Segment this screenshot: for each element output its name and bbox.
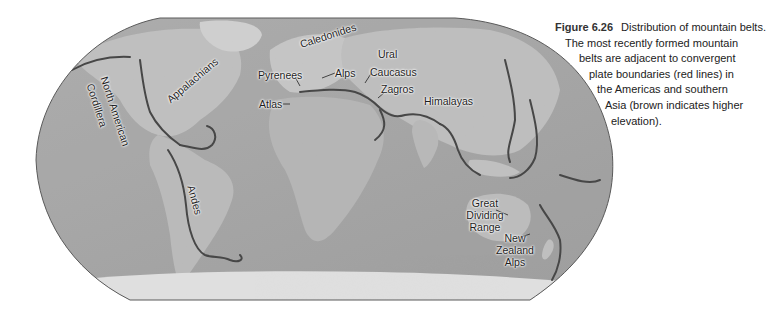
label-ural: Ural xyxy=(378,48,397,60)
caption-line-4: the Americas and southern xyxy=(555,82,775,98)
caption-title-line: Figure 6.26Distribution of mountain belt… xyxy=(555,20,775,36)
label-great-dividing-range: Great Dividing Range xyxy=(463,197,507,233)
figure-title: Distribution of mountain belts. xyxy=(621,21,766,33)
caption-line-6: elevation). xyxy=(555,114,775,130)
label-caucasus: Caucasus xyxy=(370,66,417,78)
figure-caption: Figure 6.26Distribution of mountain belt… xyxy=(555,20,775,129)
label-alps: Alps xyxy=(335,67,355,79)
label-himalayas: Himalayas xyxy=(424,95,473,107)
label-new-zealand-alps: New Zealand Alps xyxy=(492,232,538,268)
label-atlas: Atlas xyxy=(259,98,282,110)
caption-line-3: plate boundaries (red lines) in xyxy=(555,67,775,83)
caption-line-2: belts are adjacent to convergent xyxy=(555,51,775,67)
caption-line-1: The most recently formed mountain xyxy=(555,36,775,52)
label-zagros: Zagros xyxy=(381,83,414,95)
label-pyrenees: Pyrenees xyxy=(258,69,302,81)
figure-number: Figure 6.26 xyxy=(555,21,613,33)
caption-line-5: Asia (brown indicates higher xyxy=(555,98,775,114)
